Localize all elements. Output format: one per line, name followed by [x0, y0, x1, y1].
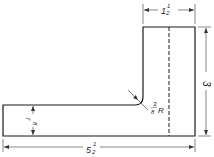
svg-text:8: 8	[151, 109, 155, 115]
svg-text:8: 8	[32, 122, 38, 126]
dim-height: 3	[198, 27, 212, 136]
technical-drawing: 1 1 2 3 5 1 2 7 8 3 8 R	[0, 0, 214, 157]
svg-text:2: 2	[91, 149, 96, 155]
svg-text:1: 1	[93, 141, 96, 147]
dim-top-width: 1 1 2	[143, 3, 195, 24]
dim-overall-length: 5 1 2	[3, 139, 195, 155]
svg-text:1: 1	[167, 3, 170, 9]
dim-arm-thickness: 7 8	[25, 106, 38, 135]
svg-text:3: 3	[153, 101, 157, 107]
svg-text:2: 2	[165, 10, 170, 16]
svg-text:R: R	[158, 106, 164, 115]
svg-text:7: 7	[25, 117, 31, 121]
svg-text:3: 3	[201, 81, 212, 87]
dim-fillet-radius: 3 8 R	[128, 90, 164, 115]
